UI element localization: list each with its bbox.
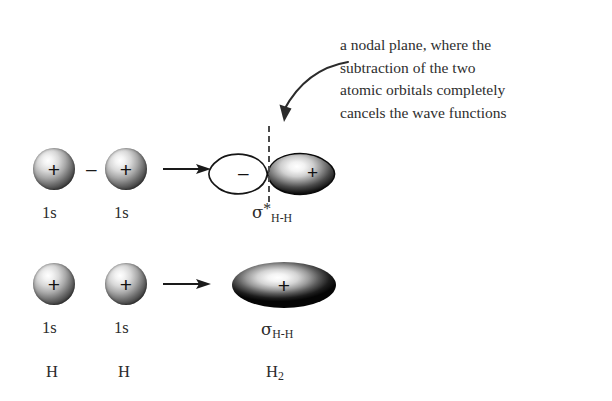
sigma-star-label: σ*H-H (252, 200, 292, 226)
sigma-star-subscript: H-H (271, 211, 292, 225)
orbital-label-1s-row2-left: 1s (42, 318, 57, 338)
orbital-label-1s-row1-right: 1s (114, 203, 129, 223)
sigma-symbol: σ (252, 203, 263, 222)
orbital-sphere-1s-row2-left: + (33, 263, 75, 305)
orbital-sphere-1s-row1-right: + (105, 148, 147, 190)
annotation-line-4: cancels the wave functions (340, 102, 602, 125)
h2-symbol: H (266, 362, 278, 381)
orbital-label-1s-row1-left: 1s (42, 203, 57, 223)
curved-arrow-icon (262, 58, 352, 140)
subtraction-operator: – (86, 158, 97, 180)
sigma-subscript: H-H (272, 327, 293, 341)
orbital-sign-plus: + (33, 148, 75, 190)
annotation-line-2: subtraction of the two (340, 57, 602, 80)
reaction-arrow-row1-icon (163, 161, 211, 177)
reaction-arrow-row2-icon (163, 276, 211, 292)
nodal-plane-annotation: a nodal plane, where the subtraction of … (340, 34, 602, 124)
sigma-symbol: σ (261, 320, 272, 339)
sigma-star-antibonding-orbital (205, 144, 355, 204)
orbital-sign-plus: + (105, 148, 147, 190)
molecular-orbital-diagram: a nodal plane, where the subtraction of … (0, 0, 612, 401)
orbital-label-1s-row2-right: 1s (114, 318, 129, 338)
orbital-sphere-1s-row2-right: + (105, 263, 147, 305)
annotation-line-1: a nodal plane, where the (340, 34, 602, 57)
species-label-right-h: H (118, 362, 130, 382)
sigma-label: σH-H (261, 320, 293, 342)
orbital-sign-plus: + (105, 263, 147, 305)
h2-subscript: 2 (278, 369, 284, 383)
species-label-left-h: H (46, 362, 58, 382)
nodal-plane-dashed-line (268, 126, 270, 202)
orbital-sign-plus: + (33, 263, 75, 305)
sigma-bonding-orbital: + (232, 262, 336, 308)
antibonding-left-lobe-sign: – (238, 163, 249, 182)
species-label-h2: H2 (266, 362, 284, 384)
bonding-orbital-sign: + (232, 262, 336, 308)
antibonding-right-lobe-sign: + (307, 163, 318, 182)
orbital-sphere-1s-row1-left: + (33, 148, 75, 190)
annotation-line-3: atomic orbitals completely (340, 79, 602, 102)
antibonding-star: * (263, 200, 271, 217)
